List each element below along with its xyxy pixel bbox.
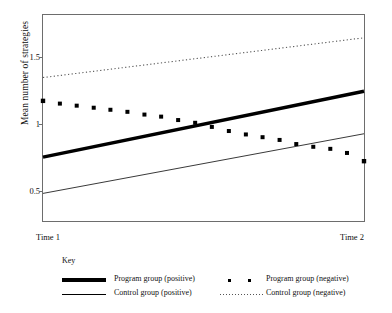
data-point-marker (294, 142, 298, 146)
plot-frame (43, 15, 365, 222)
data-point-marker (142, 113, 146, 117)
data-point-marker (92, 106, 96, 110)
data-point-marker (159, 115, 163, 119)
data-point-marker (41, 99, 45, 103)
chart-legend: Key Program group (positive) Control gro… (62, 256, 388, 306)
legend-item-control-negative: Control group (negative) (220, 289, 390, 301)
chart-figure: Mean number of strategies 1.5 1 0.5 Time… (0, 0, 392, 313)
series-program-negative (41, 99, 366, 164)
legend-swatch-thick-line-icon (62, 278, 106, 282)
legend-label-program-positive: Program group (positive) (114, 274, 195, 283)
data-point-marker (244, 132, 248, 136)
legend-label-control-positive: Control group (positive) (114, 288, 192, 297)
data-point-marker (345, 151, 349, 155)
series-program-positive (43, 91, 364, 157)
data-point-marker (108, 108, 112, 112)
data-point-marker (278, 138, 282, 142)
data-point-marker (362, 159, 366, 163)
series-control-positive (43, 134, 364, 194)
legend-label-control-negative: Control group (negative) (266, 288, 346, 297)
data-point-marker (125, 110, 129, 114)
legend-swatch-dotted-line-icon (220, 294, 264, 295)
legend-label-program-negative: Program group (negative) (266, 274, 349, 283)
data-point-marker (210, 125, 214, 129)
legend-item-control-positive: Control group (positive) (62, 289, 222, 301)
series-control-negative (43, 38, 364, 78)
legend-item-program-negative: Program group (negative) (220, 275, 390, 287)
data-point-marker (75, 104, 79, 108)
data-point-marker (227, 129, 231, 133)
legend-swatch-thin-line-icon (62, 294, 106, 295)
legend-item-program-positive: Program group (positive) (62, 275, 222, 287)
data-point-marker (328, 147, 332, 151)
data-point-marker (193, 121, 197, 125)
legend-swatch-squares-icon (220, 275, 264, 287)
data-point-marker (261, 135, 265, 139)
data-point-marker (176, 118, 180, 122)
y-axis-ticks (39, 58, 43, 192)
legend-title: Key (62, 256, 75, 265)
data-point-marker (311, 145, 315, 149)
data-point-marker (58, 102, 62, 106)
